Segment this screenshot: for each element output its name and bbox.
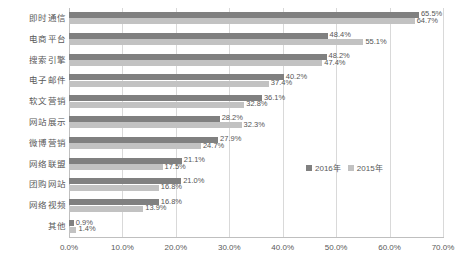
bar-2016 [69,116,220,122]
category-label: 网站展示 [2,118,66,127]
category-label: 网络视频 [2,201,66,210]
data-label: 37.4% [271,79,292,87]
x-tick-label: 0.0% [60,243,78,252]
axis-baseline [69,237,444,238]
legend-item[interactable]: 2015年 [348,162,383,173]
data-label: 55.1% [365,38,386,46]
bar-2015 [69,18,415,24]
data-label: 13.9% [145,204,166,212]
bar-2016 [69,33,328,39]
x-tick-label: 60.0% [378,243,401,252]
bar-group: 36.1%32.8% [69,91,443,112]
bar-2016 [69,137,218,143]
chart-legend: 2016年2015年 [306,162,383,173]
bar-2015 [69,143,201,149]
legend-swatch-icon [348,165,354,171]
bar-2015 [69,122,242,128]
x-tick-label: 40.0% [271,243,294,252]
x-tick-label: 50.0% [325,243,348,252]
bar-group: 0.9%1.4% [69,216,443,237]
bar-2015 [69,39,363,45]
bar-2015 [69,102,244,108]
x-tick-label: 30.0% [218,243,241,252]
bar-chart: 即时通信电商平台搜索引擎电子邮件软文营销网站展示微博营销网络联盟团购网站网络视频… [0,0,460,277]
data-label: 28.2% [222,114,243,122]
category-label: 搜索引擎 [2,56,66,65]
plot-area: 65.5%64.7%48.4%55.1%48.2%47.4%40.2%37.4%… [69,8,443,237]
bar-group: 16.8%13.9% [69,195,443,216]
bar-2016 [69,220,74,226]
bar-group: 28.2%32.3% [69,112,443,133]
category-label: 即时通信 [2,14,66,23]
data-label: 32.8% [246,100,267,108]
bar-2016 [69,12,419,18]
category-label: 团购网站 [2,180,66,189]
bar-group: 27.9%24.7% [69,133,443,154]
bar-group: 40.2%37.4% [69,70,443,91]
data-label: 21.0% [183,177,204,185]
data-label: 24.7% [203,142,224,150]
data-label: 16.8% [161,183,182,191]
category-label: 软文营销 [2,97,66,106]
data-label: 48.4% [330,31,351,39]
legend-item[interactable]: 2016年 [306,162,341,173]
bar-2015 [69,60,322,66]
category-label: 电子邮件 [2,76,66,85]
x-tick-label: 20.0% [165,243,188,252]
data-label: 1.4% [78,225,95,233]
data-label: 17.5% [165,163,186,171]
category-axis: 即时通信电商平台搜索引擎电子邮件软文营销网站展示微博营销网络联盟团购网站网络视频… [0,8,66,237]
x-tick-label: 10.0% [111,243,134,252]
category-label: 网络联盟 [2,160,66,169]
legend-label: 2016年 [315,162,341,173]
x-tick-label: 70.0% [432,243,455,252]
bar-2016 [69,54,327,60]
bar-2015 [69,164,163,170]
bar-2015 [69,185,159,191]
category-label: 其他 [2,222,66,231]
bar-group: 21.1%17.5% [69,154,443,175]
category-label: 电商平台 [2,35,66,44]
data-label: 32.3% [244,121,265,129]
data-label: 47.4% [324,59,345,67]
legend-label: 2015年 [357,162,383,173]
data-label: 21.1% [184,156,205,164]
bar-group: 21.0%16.8% [69,175,443,196]
value-axis: 0.0%10.0%20.0%30.0%40.0%50.0%60.0%70.0% [0,243,460,263]
bar-2015 [69,206,143,212]
gridline [443,8,444,237]
data-label: 64.7% [417,17,438,25]
bar-2015 [69,81,269,87]
legend-swatch-icon [306,165,312,171]
category-label: 微博营销 [2,139,66,148]
bar-2016 [69,74,284,80]
bar-2015 [69,227,76,233]
bar-2016 [69,95,262,101]
bar-group: 65.5%64.7% [69,8,443,29]
bar-group: 48.2%47.4% [69,50,443,71]
bar-group: 48.4%55.1% [69,29,443,50]
